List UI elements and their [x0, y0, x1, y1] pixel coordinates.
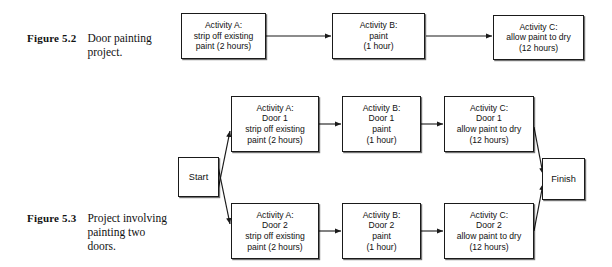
node-f53-door2-activity-a[interactable]: Activity A: Door 2 strip off existing pa…: [231, 203, 319, 259]
node-f52-activity-a[interactable]: Activity A: strip off existing paint (2 …: [181, 13, 266, 59]
node-f53-finish[interactable]: Finish: [542, 158, 585, 200]
figure-5-2-caption: Figure 5.2 Door painting project.: [27, 31, 152, 59]
figure-5-2-text: Door painting project.: [87, 31, 151, 59]
node-f52-activity-b[interactable]: Activity B: paint (1 hour): [332, 13, 425, 59]
figure-page: Figure 5.2 Door painting project. Activi…: [0, 0, 612, 267]
node-f53-door1-activity-a[interactable]: Activity A: Door 1 strip off existing pa…: [231, 96, 319, 152]
node-f53-door2-activity-b[interactable]: Activity B: Door 2 paint (1 hour): [342, 203, 421, 259]
node-f53-door1-activity-b[interactable]: Activity B: Door 1 paint (1 hour): [342, 96, 421, 152]
figure-5-3-label: Figure 5.3: [27, 211, 76, 225]
arrow-f53-start-to-door2-a: [218, 166, 230, 224]
node-f52-activity-c[interactable]: Activity C: allow paint to dry (12 hours…: [493, 15, 584, 60]
arrow-f53-start-to-door1-a: [218, 131, 230, 190]
figure-5-3-caption: Figure 5.3 Project involving painting tw…: [27, 211, 167, 253]
figure-5-2-label: Figure 5.2: [27, 31, 76, 45]
node-f53-door1-activity-c[interactable]: Activity C: Door 1 allow paint to dry (1…: [444, 96, 534, 152]
node-f53-start[interactable]: Start: [178, 157, 219, 197]
node-f53-door2-activity-c[interactable]: Activity C: Door 2 allow paint to dry (1…: [444, 203, 534, 259]
figure-5-3-text: Project involving painting two doors.: [87, 211, 167, 253]
